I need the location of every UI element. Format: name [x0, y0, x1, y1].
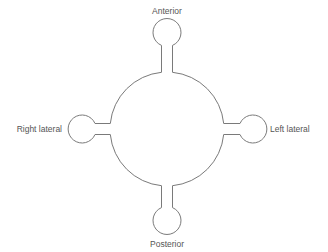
chamber-outline	[68, 19, 267, 235]
label-posterior: Posterior	[150, 239, 184, 249]
label-anterior: Anterior	[152, 6, 182, 16]
label-left-lateral: Left lateral	[270, 124, 310, 134]
lobed-chamber-diagram: Anterior Left lateral Posterior Right la…	[0, 0, 328, 252]
label-right-lateral: Right lateral	[17, 124, 62, 134]
